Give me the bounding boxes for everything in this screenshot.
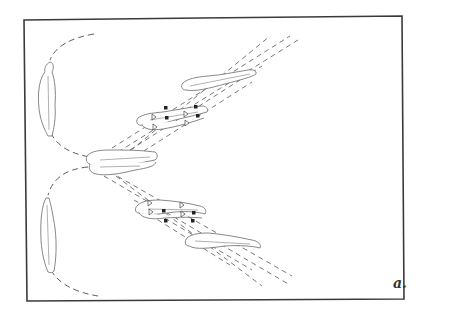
vertical-figure-bottom-left [41, 198, 56, 273]
solid-square-marker [191, 219, 195, 223]
upper-diagonal-figure-far [182, 70, 257, 91]
lower-dashed-arc [51, 270, 98, 296]
vertical-figure-top-left [38, 62, 55, 136]
upper-dashed-arc [50, 34, 94, 60]
diagram-canvas [0, 0, 455, 320]
figure-label: a. [393, 275, 407, 291]
solid-square-marker [194, 105, 198, 109]
solid-square-marker [164, 219, 168, 223]
solid-square-marker [192, 211, 196, 215]
lower-diagonal-figure-pair [135, 200, 205, 219]
solid-square-marker [196, 114, 200, 118]
downward-trails [104, 172, 292, 286]
horizontal-figure-center [86, 150, 157, 175]
upper-dashed-arc-lower [51, 133, 90, 157]
solid-square-marker [162, 209, 166, 213]
solid-square-marker [165, 116, 169, 120]
figure-frame [24, 16, 404, 301]
upward-trails [112, 36, 298, 156]
lower-diagonal-figure-far [185, 233, 260, 248]
lower-dashed-arc-upper [48, 167, 88, 195]
upper-diagonal-figure-pair [137, 106, 208, 130]
solid-square-marker [164, 106, 168, 110]
